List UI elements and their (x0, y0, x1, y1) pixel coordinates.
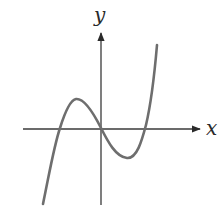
x-axis-label: x (206, 116, 217, 140)
y-axis-label: y (93, 3, 106, 27)
cubic-curve (43, 45, 157, 204)
cubic-graph: y x (0, 0, 221, 216)
